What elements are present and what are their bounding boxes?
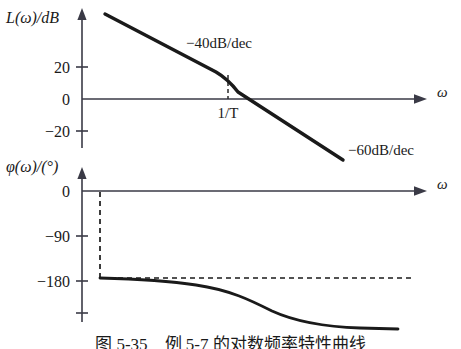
bode-figure: 20 0 −20 L(ω)/dB ω −40dB/dec −60dB/dec 1… <box>0 0 461 349</box>
magnitude-y-axis <box>77 8 86 148</box>
phase-x-axis <box>82 186 427 196</box>
phase-tick-label-minus-90: −90 <box>45 228 70 245</box>
corner-frequency-label: 1/T <box>218 105 239 121</box>
slope-label-minus-40: −40dB/dec <box>186 35 252 51</box>
phase-x-axis-arrow <box>414 186 427 196</box>
magnitude-tick-label-minus-20: −20 <box>45 123 70 140</box>
magnitude-panel: 20 0 −20 L(ω)/dB ω −40dB/dec −60dB/dec 1… <box>5 8 448 160</box>
magnitude-tick-label-0: 0 <box>62 91 70 108</box>
phase-y-axis-label: φ(ω)/(°) <box>6 158 58 176</box>
figure-caption-strip: 图 5-35 例 5-7 的对数频率特性曲线 <box>0 335 461 349</box>
magnitude-x-axis-arrow <box>414 94 427 104</box>
phase-tick-label-0: 0 <box>62 183 70 200</box>
magnitude-x-axis-label: ω <box>437 84 448 100</box>
phase-y-axis-arrow <box>77 167 86 179</box>
figure-caption: 图 5-35 例 5-7 的对数频率特性曲线 <box>0 335 461 349</box>
slope-label-minus-60: −60dB/dec <box>348 142 414 158</box>
bode-plot-canvas: 20 0 −20 L(ω)/dB ω −40dB/dec −60dB/dec 1… <box>0 0 461 349</box>
magnitude-y-axis-arrow <box>77 8 86 20</box>
phase-x-axis-label: ω <box>437 176 448 192</box>
magnitude-tick-label-20: 20 <box>54 59 70 76</box>
phase-tick-label-minus-180: −180 <box>37 273 70 290</box>
phase-panel: 0 −90 −180 φ(ω)/(°) ω <box>6 158 448 329</box>
magnitude-y-axis-label: L(ω)/dB <box>5 9 59 27</box>
phase-characteristic-curve <box>100 278 398 329</box>
